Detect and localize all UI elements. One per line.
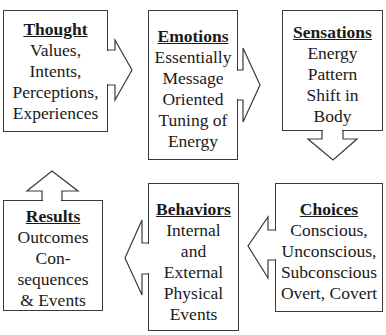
box-line: Perceptions, [4, 82, 107, 103]
arrow-choices-to-behaviors [248, 217, 276, 278]
box-line: Values, [4, 40, 107, 61]
box-title: Choices [276, 199, 382, 220]
box-emotions: Emotions Essentially Message Oriented Tu… [148, 10, 238, 160]
arrow-results-to-thought [27, 171, 78, 201]
box-line: Unconscious, [276, 241, 382, 262]
box-line: Intents, [4, 61, 107, 82]
box-line: and [149, 241, 238, 262]
box-line: Tuning of [149, 110, 237, 131]
box-title: Emotions [149, 26, 237, 47]
box-line: & Events [4, 290, 102, 311]
arrow-behaviors-to-results [125, 220, 149, 295]
box-line: Subconscious [276, 262, 382, 283]
arrow-sensations-to-choices [308, 129, 357, 160]
box-line: Energy [283, 43, 382, 64]
box-line: Outcomes [4, 227, 102, 248]
box-choices: Choices Conscious, Unconscious, Subconsc… [275, 183, 383, 312]
box-title: Sensations [283, 22, 382, 43]
box-thought: Thought Values, Intents, Perceptions, Ex… [3, 10, 108, 132]
box-line: Energy [149, 131, 237, 152]
box-line: Oriented [149, 89, 237, 110]
box-results: Results Outcomes Con- sequences & Events [3, 200, 103, 311]
box-behaviors: Behaviors Internal and External Physical… [148, 183, 239, 331]
box-line: Events [149, 304, 238, 325]
box-line: Conscious, [276, 220, 382, 241]
box-title: Thought [4, 19, 107, 40]
box-line: Pattern [283, 64, 382, 85]
box-line: Con- [4, 248, 102, 269]
box-line: Message [149, 68, 237, 89]
box-title: Behaviors [149, 199, 238, 220]
arrow-emotions-to-sensations [236, 48, 260, 122]
box-line: Experiences [4, 103, 107, 124]
box-line: External [149, 262, 238, 283]
box-line: Shift in [283, 85, 382, 106]
box-title: Results [4, 206, 102, 227]
arrow-thought-to-emotions [106, 40, 132, 100]
box-line: Overt, Covert [276, 283, 382, 304]
box-line: sequences [4, 269, 102, 290]
box-line: Internal [149, 220, 238, 241]
box-line: Body [283, 106, 382, 127]
box-sensations: Sensations Energy Pattern Shift in Body [282, 10, 383, 131]
box-line: Essentially [149, 47, 237, 68]
box-line: Physical [149, 283, 238, 304]
